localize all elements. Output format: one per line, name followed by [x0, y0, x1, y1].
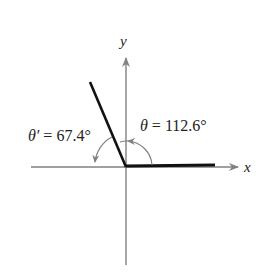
y-axis-label: y [118, 33, 127, 49]
reference-angle-arc [95, 137, 112, 162]
x-axis-label: x [243, 159, 251, 175]
reference-angle-label: θ′ = 67.4° [28, 127, 91, 144]
theta-label: θ = 112.6° [140, 117, 207, 134]
terminal-side [90, 82, 126, 167]
theta-arc-tail [120, 141, 128, 142]
initial-side [126, 165, 215, 166]
angle-diagram: y x θ = 112.6° θ′ = 67.4° [0, 0, 267, 279]
theta-arc [128, 141, 152, 165]
